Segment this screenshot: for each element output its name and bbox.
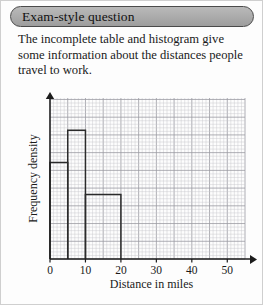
histogram-bar-5-10 — [68, 130, 86, 259]
y-axis-arrowhead — [46, 92, 54, 99]
x-axis-ticks: 01020304050 — [47, 259, 233, 276]
x-tick-label: 20 — [115, 264, 127, 276]
page-title: Exam-style question — [22, 9, 135, 25]
x-tick-label: 40 — [186, 264, 198, 276]
axes — [46, 92, 257, 264]
x-axis-arrowhead — [250, 255, 257, 264]
graph-paper-grid — [50, 98, 245, 259]
question-body-text: The incomplete table and histogram give … — [18, 32, 250, 79]
x-tick-label: 50 — [222, 264, 234, 276]
x-tick-label: 10 — [80, 264, 92, 276]
x-tick-label: 30 — [151, 264, 163, 276]
x-axis-label: Distance in miles — [110, 277, 194, 291]
exam-style-question-header: Exam-style question — [10, 6, 254, 27]
y-axis-label: Frequency density — [26, 134, 40, 222]
exam-question-card: Exam-style question The incomplete table… — [0, 0, 263, 305]
histogram-bar-0-5 — [50, 162, 68, 259]
histogram-bar-10-20 — [85, 195, 120, 259]
x-tick-label: 0 — [47, 264, 53, 276]
histogram-bars — [50, 130, 121, 259]
